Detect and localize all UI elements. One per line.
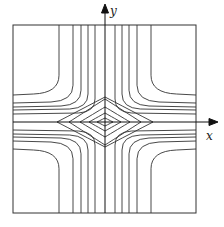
open-contour [13,25,59,95]
axes [13,4,218,213]
open-contour [129,137,196,213]
open-contour [151,149,196,213]
contour-plot: x y [0,0,224,227]
open-contour [13,25,88,110]
y-axis-label: y [109,4,117,18]
open-contour [13,25,73,103]
open-contour [137,141,196,213]
x-axis-arrowhead-icon [209,119,218,126]
y-axis-arrowhead-icon [102,4,109,13]
open-contour [137,25,196,103]
open-contour [151,25,196,95]
open-contour [122,134,196,213]
x-axis-label: x [206,129,213,143]
open-contour [13,137,81,213]
open-contour [13,134,88,213]
open-contour [13,149,59,213]
open-contour [13,25,95,114]
open-contour [122,25,196,110]
open-contour [115,25,196,114]
open-contour [13,141,73,213]
